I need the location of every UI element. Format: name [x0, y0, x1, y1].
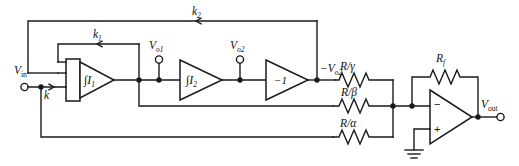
label-r-beta: R/β — [340, 86, 357, 99]
resistor-r-beta[interactable] — [333, 99, 393, 113]
circuit-diagram: ∫I1 ∫I2 −1 — [0, 0, 519, 166]
output-terminal-vout[interactable] — [472, 113, 504, 120]
opamp-plus-label: + — [434, 123, 440, 135]
label-r-gamma: R/γ — [339, 60, 355, 73]
probe-vo1[interactable] — [155, 56, 162, 83]
resistor-r-alpha[interactable] — [333, 130, 393, 144]
label-vo1: Vo1 — [149, 39, 164, 54]
node-summing-junction — [390, 103, 395, 108]
label-r-alpha: R/α — [339, 117, 357, 129]
node-minus-vo2 — [314, 77, 319, 82]
label-k2: k2 — [192, 5, 201, 20]
label-k: k — [44, 89, 50, 101]
probe-vo2[interactable] — [236, 56, 243, 83]
label-k1: k1 — [93, 28, 102, 43]
opamp-minus-label: − — [434, 98, 440, 110]
schematic-canvas: ∫I1 ∫I2 −1 — [0, 0, 519, 166]
label-rf: Rf — [435, 52, 446, 67]
unity-inverter[interactable] — [266, 60, 308, 100]
wire-int1-to-beta — [139, 80, 333, 106]
ground-connection — [405, 129, 430, 158]
label-vin: Vin — [14, 64, 27, 79]
resistor-r-gamma[interactable] — [335, 73, 393, 87]
label-vout: Vout — [481, 98, 499, 113]
inverter-label: −1 — [274, 74, 287, 86]
label-vo2: Vo2 — [230, 39, 245, 54]
